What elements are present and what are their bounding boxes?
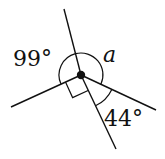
angle-label-44: 44° [104, 108, 143, 130]
ray-right [81, 75, 156, 110]
angle-diagram: 99° a 44° [0, 0, 165, 159]
center-point [77, 71, 85, 79]
angle-label-99: 99° [13, 48, 52, 70]
angle-label-a: a [103, 44, 116, 66]
diagram-lines [0, 0, 165, 159]
arc-99 [59, 54, 75, 84]
ray-left [11, 75, 81, 107]
arc-44 [96, 89, 112, 105]
ray-top [64, 9, 81, 75]
